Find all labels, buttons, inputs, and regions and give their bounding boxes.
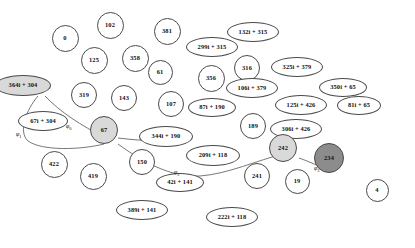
node-label: 67 [101,127,108,133]
node-label: 209i + 118 [199,152,227,158]
node-label: 125 [89,57,99,63]
graph-node-n150[interactable]: 150 [129,149,155,175]
node-label: 143 [119,95,129,101]
graph-node-n299[interactable]: 299i + 315 [186,37,238,57]
node-label: 306i + 426 [282,126,311,132]
graph-node-n356[interactable]: 356 [198,65,225,92]
graph-node-n189[interactable]: 189 [240,113,266,139]
graph-node-n87[interactable]: 87i + 190 [188,98,236,117]
graph-node-n19[interactable]: 19 [285,169,310,194]
graph-node-n102[interactable]: 102 [97,12,124,39]
node-label: 150 [137,159,147,165]
graph-node-n132[interactable]: 132i + 315 [227,22,279,42]
node-label: 132i + 315 [239,29,268,35]
graph-node-n422[interactable]: 422 [41,151,68,178]
node-label: 189 [248,123,258,129]
graph-node-n389[interactable]: 389i + 141 [116,200,168,220]
edge-label-subscript: 0 [69,126,71,131]
node-label: 234 [324,155,334,161]
node-label: 319 [79,92,89,98]
node-label: 241 [252,173,262,179]
isogeny-graph-canvas: 0102381132i + 315299i + 3151253586131632… [0,0,415,248]
node-label: 42i + 141 [167,179,193,185]
graph-node-n350[interactable]: 350i + 65 [319,78,367,97]
node-label: 356 [206,75,216,81]
node-label: 67i + 304 [30,118,56,124]
graph-node-n4[interactable]: 4 [366,179,389,202]
graph-node-n358[interactable]: 358 [122,45,149,72]
graph-node-n325[interactable]: 325i + 379 [271,57,323,77]
graph-node-n381[interactable]: 381 [154,18,181,45]
graph-node-n419[interactable]: 419 [80,163,107,190]
edge-label-phi0: φ0 [66,123,72,131]
graph-node-n319[interactable]: 319 [71,82,97,108]
node-label: 325i + 379 [283,64,312,70]
edge-label-phi1: φ1 [16,131,22,139]
node-label: 389i + 141 [128,207,157,213]
node-label: 344i + 190 [152,133,181,139]
node-label: 299i + 315 [198,44,227,50]
edge-label-phi3: φ3 [314,165,320,173]
edge-label-subscript: 2 [177,172,179,177]
node-label: 358 [130,55,140,61]
graph-node-n222[interactable]: 222i + 118 [206,207,258,227]
node-label: 4 [375,187,378,193]
graph-node-n0[interactable]: 0 [52,25,79,52]
graph-node-n241[interactable]: 241 [244,163,270,189]
graph-node-n364[interactable]: 364i + 304 [0,75,51,96]
graph-node-n316[interactable]: 316 [234,55,260,81]
node-label: 19 [294,178,301,184]
node-label: 242 [278,145,288,151]
node-label: 102 [105,22,115,28]
edge-label-phi2: φ2 [174,169,180,177]
edge-label-subscript: 3 [317,168,319,173]
node-label: 61 [157,69,164,75]
node-label: 81i + 65 [348,102,370,108]
graph-node-n42[interactable]: 42i + 141 [156,173,204,192]
node-label: 125i + 426 [287,102,316,108]
graph-node-n125b[interactable]: 125i + 426 [275,95,327,115]
node-label: 107 [166,101,176,107]
node-label: 316 [242,65,252,71]
node-label: 106i + 379 [238,85,267,91]
node-label: 422 [49,161,59,167]
node-label: 0 [63,35,66,41]
graph-node-n125c[interactable]: 125 [81,47,108,74]
node-label: 222i + 118 [218,214,246,220]
graph-node-n242[interactable]: 242 [269,134,297,162]
graph-node-n209[interactable]: 209i + 118 [186,145,240,166]
node-label: 87i + 190 [199,104,225,110]
graph-node-n67e[interactable]: 67i + 304 [18,111,68,131]
node-label: 381 [162,28,172,34]
node-label: 350i + 65 [330,84,356,90]
edge-label-subscript: 1 [19,134,21,139]
node-label: 364i + 304 [9,82,38,88]
graph-node-n106[interactable]: 106i + 379 [226,78,278,98]
graph-node-n61[interactable]: 61 [148,60,173,85]
graph-node-n143[interactable]: 143 [111,85,137,111]
graph-node-n81[interactable]: 81i + 65 [337,96,381,115]
graph-node-n107[interactable]: 107 [158,91,184,117]
graph-node-n344[interactable]: 344i + 190 [139,126,193,147]
graph-node-n67[interactable]: 67 [90,116,118,144]
node-label: 419 [88,173,98,179]
